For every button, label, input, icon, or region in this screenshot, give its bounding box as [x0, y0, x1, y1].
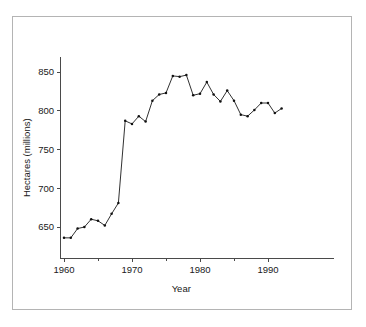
series-data-point	[199, 92, 202, 95]
series-data-point	[97, 220, 100, 223]
y-tick-labels-group: 650700750800850	[38, 66, 54, 232]
series-data-point	[104, 224, 107, 227]
y-tick-label: 700	[38, 183, 54, 194]
series-data-point	[63, 237, 66, 240]
series-data-point	[131, 123, 134, 126]
y-tick-label: 750	[38, 144, 54, 155]
series-data-point	[158, 93, 161, 96]
series-data-point	[274, 112, 277, 115]
series-data-point	[76, 227, 79, 230]
series-data-point	[90, 218, 93, 221]
series-data-point	[206, 81, 209, 84]
series-line	[64, 75, 282, 238]
chart-plot-area: 1960197019801990 650700750800850 Year He…	[0, 0, 366, 327]
series-data-point	[70, 237, 73, 240]
data-series-group	[63, 74, 283, 239]
x-tick-label: 1960	[53, 264, 74, 275]
series-data-point	[172, 75, 175, 78]
series-data-point	[117, 202, 120, 205]
x-tick-label: 1970	[121, 264, 142, 275]
tick-marks-group	[57, 72, 268, 262]
y-tick-label: 800	[38, 105, 54, 116]
series-data-point	[267, 102, 270, 105]
series-data-point	[178, 75, 181, 78]
x-tick-label: 1990	[257, 264, 278, 275]
series-data-point	[226, 89, 229, 92]
y-tick-label: 850	[38, 66, 54, 77]
series-data-point	[240, 113, 243, 116]
x-axis-title: Year	[172, 283, 191, 294]
x-tick-labels-group: 1960197019801990	[53, 264, 278, 275]
series-data-point	[212, 93, 215, 96]
y-axis-title: Hectares (millions)	[21, 118, 32, 197]
series-data-point	[83, 226, 86, 229]
series-data-point	[246, 115, 249, 118]
series-data-point	[124, 120, 127, 123]
series-data-point	[110, 213, 113, 216]
x-tick-label: 1980	[189, 264, 210, 275]
chart-figure: 1960197019801990 650700750800850 Year He…	[0, 0, 366, 327]
series-data-point	[165, 92, 168, 95]
series-data-point	[253, 109, 256, 112]
series-data-point	[260, 102, 263, 105]
series-data-point	[144, 120, 147, 123]
y-tick-label: 650	[38, 221, 54, 232]
axes-group	[61, 57, 335, 259]
series-data-point	[185, 74, 188, 77]
series-data-point	[280, 107, 283, 110]
series-data-point	[219, 100, 222, 103]
series-data-point	[138, 115, 141, 118]
series-data-point	[233, 99, 236, 102]
series-data-point	[192, 94, 195, 97]
series-data-point	[151, 99, 154, 102]
